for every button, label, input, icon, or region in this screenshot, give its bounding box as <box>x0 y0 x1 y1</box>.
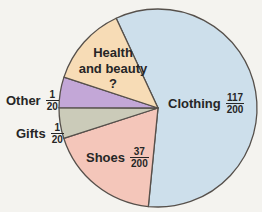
health-label-line1: Health <box>62 45 164 61</box>
other-label: Other 1 20 <box>6 89 59 112</box>
health-value-unknown: ? <box>62 76 164 92</box>
other-fraction: 1 20 <box>46 89 59 112</box>
clothing-fraction: 117 200 <box>226 92 245 115</box>
gifts-label: Gifts 1 20 <box>16 122 64 145</box>
shoes-label: Shoes 37 200 <box>86 146 149 169</box>
shoes-fraction: 37 200 <box>130 146 149 169</box>
shoes-label-text: Shoes <box>86 150 125 165</box>
health-label-line2: and beauty <box>62 61 164 77</box>
pie-chart: Health and beauty ? Other 1 20 Gifts 1 2… <box>0 0 262 212</box>
clothing-label: Clothing 117 200 <box>168 92 244 115</box>
health-and-beauty-label: Health and beauty ? <box>62 45 164 92</box>
clothing-label-text: Clothing <box>168 96 221 111</box>
gifts-label-text: Gifts <box>16 126 46 141</box>
gifts-fraction: 1 20 <box>51 122 64 145</box>
other-label-text: Other <box>6 93 41 108</box>
